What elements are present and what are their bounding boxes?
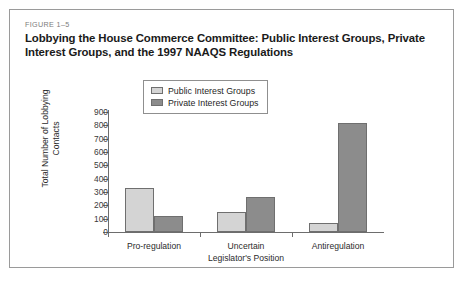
x-axis-tick (200, 232, 201, 237)
legend-item: Private Interest Groups (151, 97, 258, 108)
y-axis-tick-label: 400 (82, 175, 108, 183)
legend-item: Public Interest Groups (151, 85, 258, 96)
y-axis-tick-label: 200 (82, 201, 108, 209)
bar (125, 188, 154, 232)
figure-card: FIGURE 1–5 Lobbying the House Commerce C… (9, 9, 454, 268)
x-axis-category-label: Antiregulation (292, 241, 384, 251)
bar (338, 123, 367, 232)
bar (154, 216, 183, 232)
legend-item-label: Private Interest Groups (168, 98, 258, 108)
y-axis-tick-label: 300 (82, 188, 108, 196)
y-axis-tick-label: 600 (82, 148, 108, 156)
y-axis-tick-label: 100 (82, 215, 108, 223)
legend-swatch-icon (151, 99, 163, 106)
x-axis-category-label: Uncertain (200, 241, 292, 251)
y-axis-title: Total Number of Lobbying Contacts (40, 79, 61, 199)
y-axis-tick-label: 800 (82, 121, 108, 129)
bar (217, 212, 246, 232)
bar (309, 223, 338, 232)
x-axis-tick (108, 232, 109, 237)
y-axis-tick-label: 700 (82, 135, 108, 143)
chart-legend: Public Interest GroupsPrivate Interest G… (143, 80, 268, 114)
y-axis-line (108, 110, 109, 234)
y-axis-tick-label: 900 (82, 108, 108, 116)
y-axis-tick-label: 0 (82, 228, 108, 236)
bar (246, 197, 275, 232)
legend-swatch-icon (151, 87, 163, 94)
bar-chart-plot: Total Number of Lobbying Contacts 900800… (10, 10, 455, 269)
x-axis-title: Legislator's Position (108, 253, 384, 263)
y-axis-tick-label: 500 (82, 161, 108, 169)
x-axis-category-label: Pro-regulation (108, 241, 200, 251)
x-axis-line (108, 232, 384, 233)
legend-item-label: Public Interest Groups (168, 86, 255, 96)
x-axis-tick (292, 232, 293, 237)
